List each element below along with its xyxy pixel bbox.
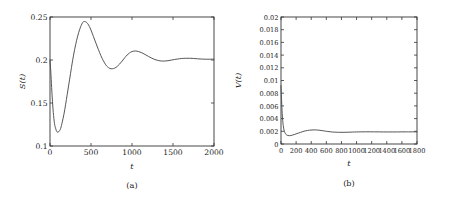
x-tick-label: 2000 bbox=[204, 148, 223, 157]
y-tick-label: 0.02 bbox=[263, 14, 278, 22]
panel-b: 02004006008001000120014001600180000.0020… bbox=[232, 0, 463, 198]
x-tick-label: 400 bbox=[304, 147, 317, 155]
x-tick-label: 1000 bbox=[122, 148, 141, 157]
y-axis-title: V(t) bbox=[233, 73, 243, 89]
x-tick-label: 500 bbox=[84, 148, 99, 157]
x-tick-label: 0 bbox=[278, 147, 282, 155]
plot-b-svg: 02004006008001000120014001600180000.0020… bbox=[232, 0, 463, 198]
data-curve bbox=[50, 21, 214, 132]
x-tick-label: 1800 bbox=[408, 147, 425, 155]
y-tick-label: 0.1 bbox=[35, 142, 47, 151]
y-tick-label: 0.002 bbox=[259, 128, 278, 136]
data-curve bbox=[281, 86, 417, 136]
panel-caption: (b) bbox=[343, 178, 355, 188]
x-tick-label: 600 bbox=[320, 147, 333, 155]
y-tick-label: 0.014 bbox=[259, 52, 278, 60]
y-tick-label: 0.01 bbox=[263, 77, 278, 85]
plot-frame bbox=[281, 17, 417, 144]
y-tick-label: 0.012 bbox=[259, 64, 278, 72]
y-tick-label: 0.15 bbox=[31, 99, 48, 108]
x-axis-title: t bbox=[130, 161, 134, 171]
x-tick-label: 800 bbox=[335, 147, 348, 155]
y-tick-label: 0.2 bbox=[35, 56, 47, 65]
y-tick-label: 0.008 bbox=[259, 90, 278, 98]
y-tick-label: 0.004 bbox=[259, 115, 278, 123]
x-tick-label: 200 bbox=[289, 147, 302, 155]
y-tick-label: 0 bbox=[274, 141, 278, 149]
y-tick-label: 0.016 bbox=[259, 39, 278, 47]
y-axis-title: S(t) bbox=[17, 74, 27, 89]
y-tick-label: 0.006 bbox=[259, 103, 278, 111]
y-tick-label: 0.018 bbox=[259, 26, 278, 34]
panel-caption: (a) bbox=[126, 180, 137, 190]
x-tick-label: 1500 bbox=[163, 148, 182, 157]
figure-container: 05001000150020000.10.150.20.25tS(t)(a) 0… bbox=[0, 0, 463, 198]
plot-a-svg: 05001000150020000.10.150.20.25tS(t)(a) bbox=[0, 0, 231, 198]
plot-frame bbox=[50, 17, 214, 146]
y-tick-label: 0.25 bbox=[31, 13, 48, 22]
x-axis-title: t bbox=[347, 158, 351, 168]
panel-a: 05001000150020000.10.150.20.25tS(t)(a) bbox=[0, 0, 232, 198]
x-tick-label: 0 bbox=[48, 148, 53, 157]
